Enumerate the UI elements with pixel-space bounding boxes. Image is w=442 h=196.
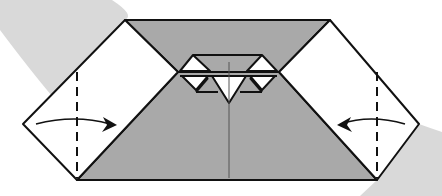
- origami-diagram: [0, 0, 442, 196]
- diagram-canvas: [0, 0, 442, 196]
